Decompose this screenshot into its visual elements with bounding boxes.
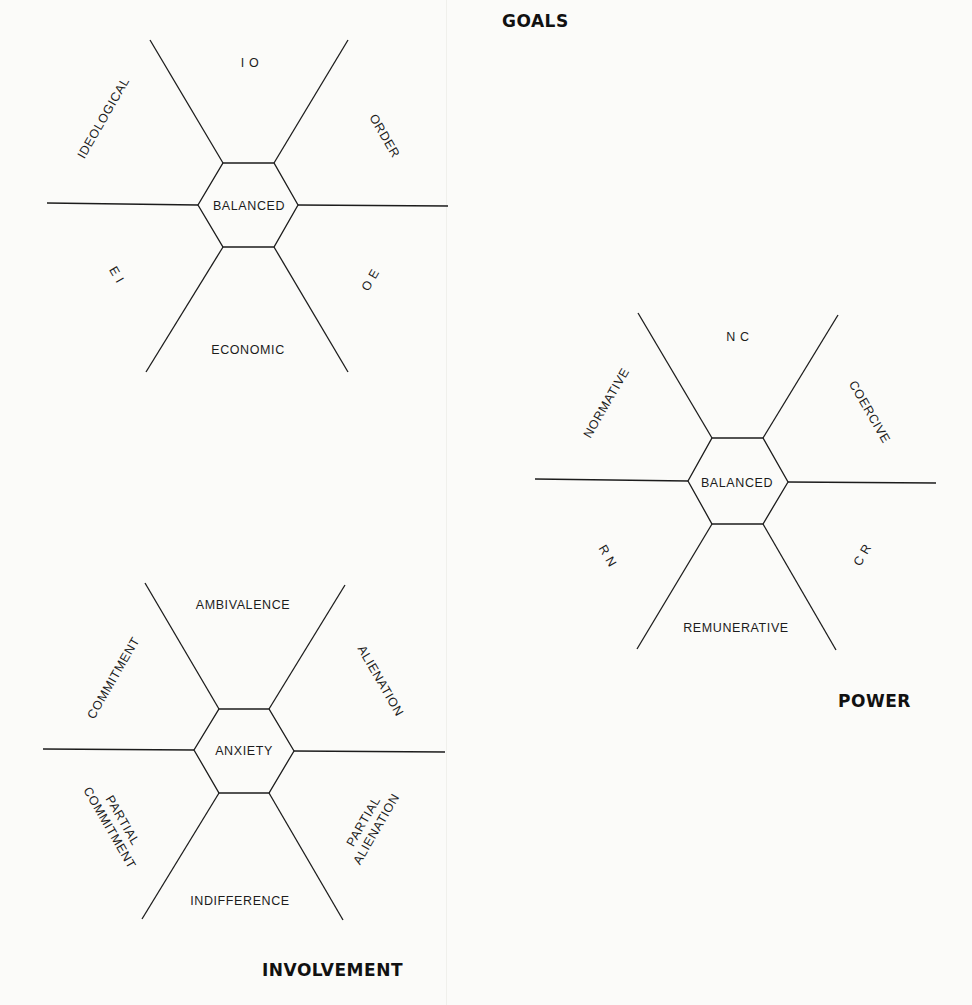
typology-diagrams: BALANCED I O IDEOLOGICAL ORDER E I O E E…	[0, 0, 972, 1005]
goals-upper-right-label: ORDER	[366, 112, 402, 161]
power-title: POWER	[838, 691, 911, 711]
power-upper-left-label: NORMATIVE	[581, 365, 633, 440]
power-lower-left-label: R N	[596, 542, 620, 569]
goals-title: GOALS	[502, 11, 569, 31]
involvement-upper-left-label: COMMITMENT	[84, 635, 142, 722]
involvement-title: INVOLVEMENT	[262, 960, 403, 980]
goals-upper-left-label: IDEOLOGICAL	[75, 75, 133, 161]
involvement-top-label: AMBIVALENCE	[196, 598, 291, 612]
goals-bottom-label: ECONOMIC	[211, 343, 285, 357]
power-bottom-label: REMUNERATIVE	[683, 621, 789, 635]
goals-top-label: I O	[241, 56, 259, 70]
involvement-lower-right-label: PARTIAL ALIENATION	[338, 784, 403, 867]
involvement-bottom-label: INDIFFERENCE	[190, 894, 290, 908]
power-top-label: N C	[726, 330, 749, 344]
involvement-upper-right-label: ALIENATION	[355, 643, 407, 719]
goals-lower-left-label: E I	[106, 264, 127, 286]
involvement-lower-left-label: PARTIAL COMMITMENT	[80, 777, 151, 871]
power-lower-right-label: C R	[851, 541, 875, 568]
goals-lower-right-label: O E	[359, 266, 383, 293]
goals-center-label: BALANCED	[213, 199, 285, 213]
power-upper-right-label: COERCIVE	[846, 378, 893, 446]
involvement-center-label: ANXIETY	[215, 744, 273, 758]
power-center-label: BALANCED	[701, 476, 773, 490]
